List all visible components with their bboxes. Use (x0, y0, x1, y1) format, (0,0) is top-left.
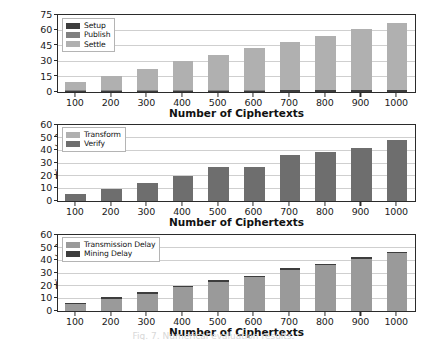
x-tick-mark (253, 312, 254, 316)
y-tick-label: 40 (40, 144, 52, 155)
bar-segment-settle (315, 36, 336, 91)
x-tick-mark (289, 93, 290, 97)
bar-group (201, 235, 237, 311)
bar-segment-transmission-delay (101, 299, 122, 311)
legend-2: Transmission DelayMining Delay (62, 237, 160, 262)
y-tick-mark (54, 310, 58, 311)
chart-panel-transmission-mining-delay: Time(s) Transmission DelayMining Delay N… (0, 224, 427, 336)
y-tick-label: 75 (40, 9, 52, 20)
y-tick-label: 30 (40, 157, 52, 168)
y-tick-label: 10 (40, 292, 52, 303)
bar-group (129, 15, 165, 92)
figure-caption: Fig. 7. Numerical evaluation results. (0, 331, 427, 340)
x-tick-label: 700 (280, 316, 298, 327)
bar-segment-setup (65, 91, 86, 92)
bar-group (379, 125, 415, 201)
legend-item: Transform (66, 131, 121, 140)
x-tick-mark (74, 312, 75, 316)
bar-segment-transmission-delay (351, 259, 372, 311)
x-tick-mark (181, 312, 182, 316)
y-tick-mark (54, 124, 58, 125)
x-tick-label: 300 (137, 316, 155, 327)
legend-label: Mining Delay (84, 249, 132, 258)
y-tick-label: 45 (40, 39, 52, 50)
y-tick-mark (54, 44, 58, 45)
x-tick-label: 300 (137, 97, 155, 108)
y-tick-label: 30 (40, 267, 52, 278)
x-tick-mark (146, 312, 147, 316)
x-tick-mark (360, 93, 361, 97)
x-tick-mark (253, 202, 254, 206)
bar-segment-mining-delay (137, 292, 158, 294)
bar-segment-setup (208, 91, 229, 92)
x-tick-label: 1000 (384, 97, 407, 108)
bar-group (379, 15, 415, 92)
y-tick-mark (54, 297, 58, 298)
x-tick-mark (217, 93, 218, 97)
x-tick-mark (217, 202, 218, 206)
bar-segment-verify (173, 176, 194, 200)
x-tick-mark (289, 312, 290, 316)
bar-segment-setup (387, 90, 408, 92)
figure-panel-group: Time(ms) SetupPublishSettle Number of Ci… (0, 0, 427, 341)
x-tick-label: 900 (352, 206, 370, 217)
y-tick-mark (54, 149, 58, 150)
x-tick-label: 700 (280, 97, 298, 108)
bar-segment-transmission-delay (315, 265, 336, 311)
y-tick-label: 50 (40, 131, 52, 142)
bar-segment-mining-delay (101, 297, 122, 299)
legend-0: SetupPublishSettle (62, 18, 115, 52)
y-tick-mark (54, 259, 58, 260)
plot-area-wrapper-2: Time(s) Transmission DelayMining Delay N… (57, 234, 416, 312)
bar-segment-verify (280, 155, 301, 200)
bar-segment-setup (280, 90, 301, 92)
bar-group (237, 125, 273, 201)
x-tick-label: 400 (173, 206, 191, 217)
x-tick-mark (396, 202, 397, 206)
bar-segment-settle (208, 55, 229, 91)
y-tick-label: 10 (40, 182, 52, 193)
bar-segment-mining-delay (208, 280, 229, 282)
bar-group (272, 125, 308, 201)
y-tick-label: 0 (46, 86, 52, 97)
y-tick-mark (54, 136, 58, 137)
y-tick-label: 60 (40, 119, 52, 130)
y-tick-mark (54, 200, 58, 201)
bar-segment-transmission-delay (137, 294, 158, 311)
bar-segment-mining-delay (244, 276, 265, 278)
bar-segment-mining-delay (387, 252, 408, 253)
x-tick-mark (74, 93, 75, 97)
bar-group (165, 125, 201, 201)
y-tick-mark (54, 284, 58, 285)
legend-item: Publish (66, 31, 110, 40)
x-tick-mark (74, 202, 75, 206)
bar-segment-mining-delay (280, 268, 301, 271)
x-tick-label: 600 (245, 316, 263, 327)
x-tick-label: 200 (102, 206, 120, 217)
x-tick-label: 700 (280, 206, 298, 217)
bar-segment-setup (173, 91, 194, 92)
bar-segment-transmission-delay (173, 287, 194, 311)
x-tick-mark (181, 93, 182, 97)
x-tick-mark (360, 202, 361, 206)
bar-group (165, 15, 201, 92)
bar-group (344, 125, 380, 201)
x-tick-label: 100 (66, 206, 84, 217)
bar-segment-settle (351, 29, 372, 90)
y-tick-mark (54, 14, 58, 15)
x-tick-mark (289, 202, 290, 206)
bar-group (344, 15, 380, 92)
x-tick-mark (110, 93, 111, 97)
legend-item: Transmission Delay (66, 241, 155, 250)
bar-group (344, 235, 380, 311)
y-tick-label: 60 (40, 24, 52, 35)
y-tick-mark (54, 234, 58, 235)
bar-group (237, 235, 273, 311)
x-tick-label: 400 (173, 97, 191, 108)
bar-segment-verify (387, 140, 408, 201)
bar-segment-mining-delay (315, 264, 336, 265)
y-tick-mark (54, 60, 58, 61)
bar-segment-settle (387, 23, 408, 90)
bar-segment-settle (244, 48, 265, 90)
bar-segment-transmission-delay (280, 270, 301, 311)
